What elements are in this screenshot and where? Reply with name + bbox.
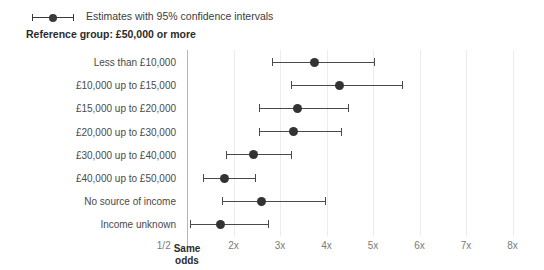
point-range-row bbox=[226, 149, 291, 161]
category-label: Less than £10,000 bbox=[94, 57, 176, 68]
same-odds-axis-line bbox=[187, 50, 188, 246]
ci-cap-lower bbox=[259, 104, 260, 112]
gridline bbox=[327, 50, 328, 236]
ci-cap-upper bbox=[325, 197, 326, 205]
point-range-row bbox=[259, 126, 341, 138]
estimate-point bbox=[310, 58, 319, 67]
same-odds-line1: Same bbox=[157, 243, 217, 255]
category-label: £10,000 up to £15,000 bbox=[76, 80, 176, 91]
point-range-row bbox=[203, 172, 255, 184]
ci-cap-upper bbox=[374, 58, 375, 66]
gridline bbox=[420, 50, 421, 236]
tick-label: 6x bbox=[400, 240, 440, 251]
ci-cap-lower bbox=[190, 220, 191, 228]
forest-plot: Less than £10,000£10,000 up to £15,000£1… bbox=[0, 0, 544, 270]
confidence-interval-line bbox=[226, 154, 291, 155]
point-range-row bbox=[222, 195, 325, 207]
category-label: £15,000 up to £20,000 bbox=[76, 103, 176, 114]
tick-label: 5x bbox=[353, 240, 393, 251]
ci-cap-lower bbox=[226, 151, 227, 159]
ci-cap-upper bbox=[268, 220, 269, 228]
estimate-point bbox=[249, 150, 258, 159]
confidence-interval-line bbox=[259, 108, 348, 109]
category-label: Income unknown bbox=[100, 219, 176, 230]
point-range-row bbox=[190, 218, 268, 230]
point-range-row bbox=[291, 79, 402, 91]
estimate-point bbox=[220, 174, 229, 183]
gridline bbox=[280, 50, 281, 236]
ci-cap-upper bbox=[348, 104, 349, 112]
estimate-point bbox=[335, 81, 344, 90]
tick-label: 2x bbox=[214, 240, 254, 251]
estimate-point bbox=[257, 197, 266, 206]
ci-cap-upper bbox=[341, 128, 342, 136]
tick-label: 3x bbox=[260, 240, 300, 251]
category-labels: Less than £10,000£10,000 up to £15,000£1… bbox=[0, 0, 176, 270]
category-label: £20,000 up to £30,000 bbox=[76, 127, 176, 138]
gridline bbox=[466, 50, 467, 236]
confidence-interval-line bbox=[259, 131, 341, 132]
tick-label: 7x bbox=[446, 240, 486, 251]
ci-cap-upper bbox=[255, 174, 256, 182]
confidence-interval-line bbox=[190, 224, 268, 225]
estimate-point bbox=[289, 127, 298, 136]
tick-label: 4x bbox=[307, 240, 347, 251]
gridline bbox=[513, 50, 514, 236]
ci-cap-lower bbox=[259, 128, 260, 136]
same-odds-line2: odds bbox=[157, 255, 217, 267]
category-label: No source of income bbox=[84, 196, 176, 207]
category-label: £40,000 up to £50,000 bbox=[76, 173, 176, 184]
same-odds-label: Sameodds bbox=[157, 243, 217, 266]
confidence-interval-line bbox=[291, 85, 402, 86]
ci-cap-lower bbox=[203, 174, 204, 182]
ci-cap-lower bbox=[291, 81, 292, 89]
point-range-row bbox=[272, 56, 374, 68]
ci-cap-lower bbox=[272, 58, 273, 66]
gridline bbox=[373, 50, 374, 236]
estimate-point bbox=[216, 220, 225, 229]
point-range-row bbox=[259, 102, 348, 114]
confidence-interval-line bbox=[272, 62, 374, 63]
category-label: £30,000 up to £40,000 bbox=[76, 150, 176, 161]
ci-cap-lower bbox=[222, 197, 223, 205]
ci-cap-upper bbox=[291, 151, 292, 159]
confidence-interval-line bbox=[222, 201, 325, 202]
confidence-interval-line bbox=[203, 178, 255, 179]
gridline bbox=[234, 50, 235, 236]
tick-label: 8x bbox=[493, 240, 533, 251]
estimate-point bbox=[293, 104, 302, 113]
ci-cap-upper bbox=[402, 81, 403, 89]
